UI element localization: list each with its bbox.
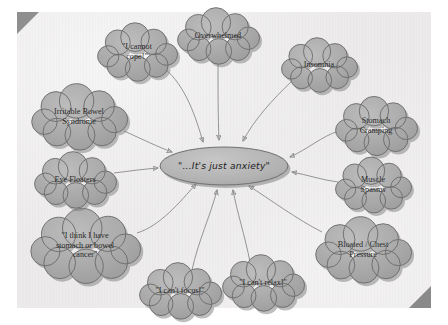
arrow-to-center <box>233 190 250 262</box>
cloud-label: Stomach <box>362 116 391 125</box>
cloud-muscle-spasms: MuscleSpasms <box>336 157 414 216</box>
cloud-label: Syndrome <box>62 117 96 126</box>
arrow-to-center <box>243 81 292 141</box>
cloud-label: Overwhelmed <box>195 31 241 40</box>
cloud-label: Muscle <box>361 175 385 184</box>
cloud-eye-floaters: Eye Floaters <box>35 152 119 212</box>
cloud-i-cant-relax: "I can't relax!" <box>223 255 307 315</box>
arrow-to-center <box>137 184 196 233</box>
arrow-to-center <box>192 190 217 270</box>
cloud-stomach-cramping: StomachCramping <box>336 96 420 158</box>
cloud-label: cope!" <box>126 52 148 61</box>
cloud-label: "I cannot <box>122 42 153 51</box>
cloud-i-cannot-cope: "I cannotcope!" <box>98 23 180 85</box>
cloud-bloated-chest-pressure: Bloated / ChestPressure <box>316 217 414 287</box>
cloud-label: Pressure <box>349 250 377 259</box>
cloud-label: "I think I have <box>61 231 109 240</box>
cloud-insomnia: Insomnia <box>282 38 360 96</box>
arrow-to-center <box>164 68 203 142</box>
cloud-overwhelmed: Overwhelmed <box>178 8 262 68</box>
arrow-to-center <box>114 168 158 173</box>
cloud-label: Irritable Bowel <box>54 107 105 116</box>
cloud-irritable-bowel-syndrome: Irritable BowelSyndrome <box>32 84 130 154</box>
cloud-label: "I can't relax!" <box>239 278 287 287</box>
cloud-label: stomach or bowel <box>56 241 115 250</box>
cloud-label: Eye Floaters <box>54 175 95 184</box>
arrow-to-center <box>290 131 339 157</box>
cloud-label: cancer" <box>73 250 98 259</box>
center-node-label: "...It's just anxiety" <box>178 160 270 171</box>
anxiety-cloud-diagram: "I cannotcope!"OverwhelmedInsomniaStomac… <box>0 0 448 325</box>
arrow-to-center <box>292 172 338 182</box>
cloud-stomach-or-bowel-cancer: "I think I havestomach or bowelcancer" <box>31 208 143 286</box>
center-node-just-anxiety: "...It's just anxiety" <box>160 147 291 188</box>
arrow-to-center <box>124 131 172 152</box>
arrow-to-center <box>249 186 322 232</box>
cloud-label: Cramping <box>360 126 393 135</box>
cloud-i-cant-focus: "I can't focus!" <box>140 263 224 323</box>
screenshot-root: "I cannotcope!"OverwhelmedInsomniaStomac… <box>0 0 448 325</box>
cloud-label: "I can't focus!" <box>155 286 204 295</box>
cloud-label: Spasms <box>360 185 385 194</box>
cloud-label: Bloated / Chest <box>338 240 389 249</box>
arrow-to-center <box>218 58 219 140</box>
cloud-label: Insomnia <box>304 60 335 69</box>
